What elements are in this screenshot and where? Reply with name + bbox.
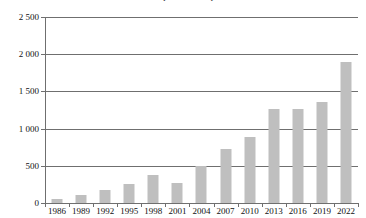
bar[interactable] [124,184,135,203]
y-axis-tick-label: 2 000 [0,49,39,59]
bar-slot [262,17,286,203]
x-axis-tick-mark [310,203,311,207]
x-axis-tick-label: 1998 [144,206,162,216]
bar-slot [214,17,238,203]
bar[interactable] [52,199,63,203]
bar-slot [141,17,165,203]
x-axis-tick-mark [262,203,263,207]
y-axis-tick-label: 500 [0,161,39,171]
bar-slot [165,17,189,203]
x-axis-tick-mark [189,203,190,207]
bar-chart: Nombre de publications par année 05001 0… [0,0,366,218]
chart-title: Nombre de publications par année [0,0,366,1]
bar[interactable] [316,102,327,203]
x-axis-tick-mark [45,203,46,207]
plot-area [45,17,358,203]
bar-slot [45,17,69,203]
x-axis-tick-label: 2010 [241,206,259,216]
bar[interactable] [100,190,111,203]
bar[interactable] [172,183,183,203]
bar-slot [189,17,213,203]
x-axis-tick-mark [165,203,166,207]
x-axis-tick-mark [93,203,94,207]
bar[interactable] [196,166,207,203]
bar[interactable] [268,109,279,203]
bar[interactable] [292,109,303,203]
x-axis-tick-mark [141,203,142,207]
x-axis-tick-label: 1986 [48,206,66,216]
bar-slot [310,17,334,203]
x-axis-tick-label: 1989 [72,206,90,216]
y-axis-tick-mark [41,17,45,18]
y-axis-tick-mark [41,129,45,130]
y-axis-tick-label: 1 000 [0,124,39,134]
bar[interactable] [244,137,255,203]
x-axis-tick-mark [358,203,359,207]
x-axis-tick-label: 2016 [289,206,307,216]
x-axis-tick-label: 2022 [337,206,355,216]
x-axis-tick-label: 2004 [193,206,211,216]
x-axis-tick-label: 2019 [313,206,331,216]
y-axis-tick-mark [41,91,45,92]
y-axis-tick-mark [41,166,45,167]
y-axis-tick-label: 2 500 [0,12,39,22]
bar-slot [286,17,310,203]
bar-slot [238,17,262,203]
x-axis-tick-mark [214,203,215,207]
x-axis-line [45,203,358,204]
bar[interactable] [220,149,231,203]
x-axis-tick-mark [69,203,70,207]
bar-slot [69,17,93,203]
bar[interactable] [148,175,159,203]
x-axis-tick-label: 1992 [96,206,114,216]
bar-series [45,17,358,203]
bar[interactable] [340,62,351,203]
bar[interactable] [76,195,87,203]
x-axis-tick-mark [334,203,335,207]
x-axis-tick-mark [238,203,239,207]
bar-slot [93,17,117,203]
y-axis-tick-label: 1 500 [0,86,39,96]
bar-slot [334,17,358,203]
x-axis-tick-label: 2013 [265,206,283,216]
x-axis-tick-label: 1995 [120,206,138,216]
x-axis-tick-mark [286,203,287,207]
bar-slot [117,17,141,203]
x-axis-tick-label: 2001 [168,206,186,216]
x-axis-tick-label: 2007 [217,206,235,216]
x-axis-tick-mark [117,203,118,207]
y-axis-tick-label: 0 [0,198,39,208]
y-axis-tick-mark [41,54,45,55]
